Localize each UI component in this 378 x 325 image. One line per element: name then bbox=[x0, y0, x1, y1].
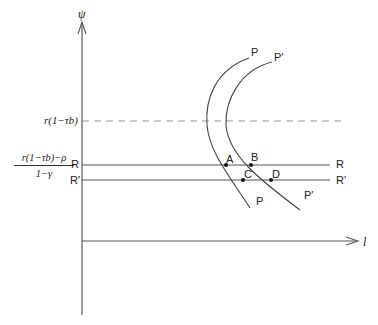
point-A-label: A bbox=[226, 154, 233, 165]
R-left-label: R bbox=[71, 159, 79, 170]
P-prime-bottom-label: P′ bbox=[304, 190, 313, 201]
P-bottom-label: P bbox=[256, 196, 263, 207]
P-prime-top-label: P′ bbox=[274, 52, 283, 63]
P-curve bbox=[207, 58, 250, 208]
point-C-label: C bbox=[244, 169, 252, 180]
y-axis-label: ψ bbox=[78, 8, 85, 20]
R-prime-left-label: R′ bbox=[70, 175, 80, 186]
P-top-label: P bbox=[251, 47, 258, 58]
point-D-label: D bbox=[272, 169, 280, 180]
fraction-numerator: r(1−τb)−ρ bbox=[14, 152, 74, 166]
dashed-level-label: r(1−τb) bbox=[44, 115, 78, 126]
R-right-label: R bbox=[336, 159, 344, 170]
R-level-fraction: r(1−τb)−ρ 1−γ bbox=[14, 152, 74, 179]
x-axis-label: l bbox=[363, 236, 366, 248]
point-B bbox=[249, 163, 253, 167]
R-prime-right-label: R′ bbox=[336, 175, 346, 186]
fraction-denominator: 1−γ bbox=[14, 166, 74, 179]
point-B-label: B bbox=[251, 152, 258, 163]
